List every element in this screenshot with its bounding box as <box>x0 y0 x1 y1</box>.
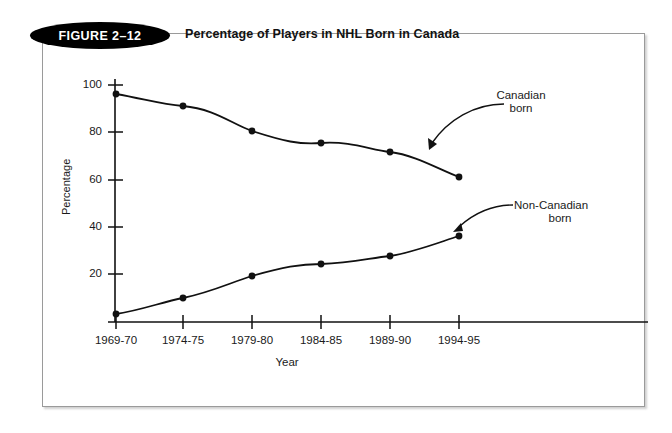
y-tick-label-60: 60 <box>68 173 102 185</box>
y-tick-label-100: 100 <box>68 78 102 90</box>
x-tick-label-1989-90: 1989-90 <box>350 334 430 346</box>
annotation-non-canadian-born-line2: born <box>514 212 606 225</box>
annotation-canadian-born: Canadian born <box>466 89 576 115</box>
annotation-canadian-born-line2: born <box>466 102 576 115</box>
annotation-canadian-born-line1: Canadian <box>466 89 576 102</box>
x-tick-label-1979-80: 1979-80 <box>212 334 292 346</box>
annotation-non-canadian-born: Non-Canadian born <box>514 199 644 225</box>
x-tick-label-1994-95: 1994-95 <box>419 334 499 346</box>
figure-number-badge: FIGURE 2–12 <box>30 22 170 49</box>
annotation-non-canadian-born-line1: Non-Canadian <box>514 199 644 212</box>
page-title: Percentage of Players in NHL Born in Can… <box>185 27 459 41</box>
y-tick-label-20: 20 <box>68 267 102 279</box>
x-tick-label-1984-85: 1984-85 <box>281 334 361 346</box>
y-tick-label-40: 40 <box>68 220 102 232</box>
y-axis-title: Percentage <box>60 159 72 215</box>
x-tick-label-1974-75: 1974-75 <box>143 334 223 346</box>
x-axis-title: Year <box>247 356 327 368</box>
figure-number-text: FIGURE 2–12 <box>59 29 142 43</box>
y-tick-label-80: 80 <box>68 125 102 137</box>
